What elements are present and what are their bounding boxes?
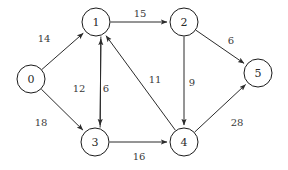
graph-diagram: 14181512696161128 012345 (0, 0, 288, 170)
graph-edge (100, 39, 101, 128)
edge-weight-label: 6 (228, 35, 234, 46)
graph-node-3: 3 (81, 128, 109, 156)
graph-node-1: 1 (82, 8, 110, 36)
edge-weight-label: 6 (103, 83, 109, 94)
node-label: 0 (28, 73, 35, 86)
graph-node-4: 4 (170, 128, 198, 156)
graph-node-2: 2 (170, 8, 198, 36)
edge-weight-label: 18 (35, 117, 48, 128)
edge-labels-layer: 14181512696161128 (35, 8, 244, 162)
graph-node-5: 5 (244, 59, 272, 87)
edge-weight-label: 14 (38, 33, 51, 44)
nodes-layer: 012345 (17, 8, 272, 156)
edge-weight-label: 28 (231, 117, 244, 128)
edge-weight-label: 11 (149, 74, 162, 85)
graph-node-0: 0 (17, 65, 45, 93)
node-label: 2 (181, 16, 188, 29)
graph-canvas: 14181512696161128 012345 (0, 0, 288, 170)
node-label: 5 (255, 67, 262, 80)
graph-edge (196, 30, 244, 63)
node-label: 3 (92, 136, 99, 149)
edge-weight-label: 12 (73, 83, 86, 94)
edge-weight-label: 16 (133, 151, 146, 162)
edge-weight-label: 15 (134, 8, 147, 19)
graph-edge (106, 36, 175, 131)
edge-weight-label: 9 (189, 77, 195, 88)
node-label: 1 (93, 16, 100, 29)
node-label: 4 (181, 136, 188, 149)
graph-edge (41, 89, 83, 130)
